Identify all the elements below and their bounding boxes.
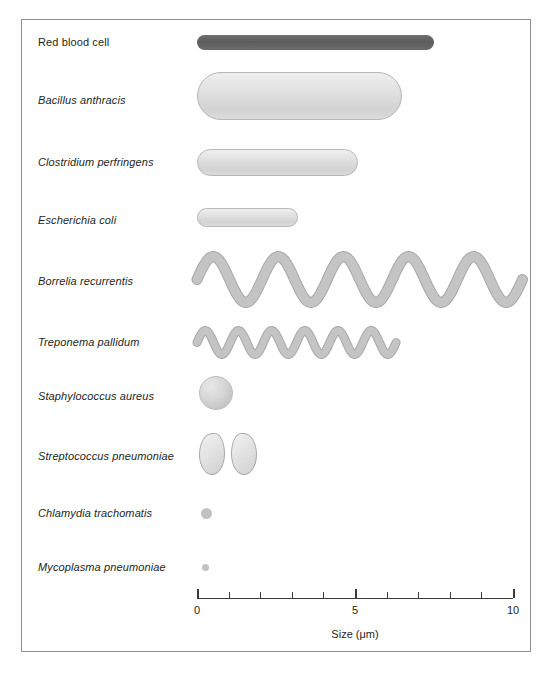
organism-label: Escherichia coli (38, 214, 116, 226)
axis-tick-label: 5 (352, 604, 358, 616)
small-dot-body (202, 564, 209, 571)
small-dot-body (201, 508, 212, 519)
axis-line (197, 598, 513, 599)
organism-label: Staphylococcus aureus (38, 390, 154, 402)
organism-label: Treponema pallidum (38, 336, 139, 348)
axis-tick-label: 10 (507, 604, 519, 616)
axis-tick-minor (229, 592, 230, 598)
axis-tick-minor (387, 592, 388, 598)
axis-tick-minor (481, 592, 482, 598)
spirochete-wave (197, 325, 396, 360)
bacteria-size-figure: Red blood cellBacillus anthracisClostrid… (0, 0, 552, 674)
spirochete-wave (197, 250, 522, 309)
organism-label: Clostridium perfringens (38, 156, 154, 168)
organism-label: Borrelia recurrentis (38, 275, 133, 287)
rod-body (197, 35, 434, 50)
rod-body (197, 149, 358, 176)
diplococcus-half (199, 433, 225, 475)
axis-tick-minor (292, 592, 293, 598)
axis-tick-minor (450, 592, 451, 598)
organism-label: Bacillus anthracis (38, 94, 126, 106)
axis-tick-minor (418, 592, 419, 598)
axis-tick-label: 0 (194, 604, 200, 616)
coccus-body (199, 376, 233, 410)
axis-tick-major (355, 589, 357, 598)
organism-label: Red blood cell (38, 36, 109, 48)
axis-tick-major (513, 589, 515, 598)
axis-title: Size (μm) (331, 628, 378, 640)
organism-label: Chlamydia trachomatis (38, 507, 152, 519)
rod-body (197, 208, 298, 227)
diplococcus-half (231, 433, 257, 475)
axis-tick-major (197, 589, 199, 598)
organism-label: Streptococcus pneumoniae (38, 450, 174, 462)
axis-tick-minor (323, 592, 324, 598)
rod-body (197, 72, 402, 120)
organism-label: Mycoplasma pneumoniae (38, 561, 166, 573)
figure-frame: Red blood cellBacillus anthracisClostrid… (21, 19, 531, 652)
axis-tick-minor (260, 592, 261, 598)
